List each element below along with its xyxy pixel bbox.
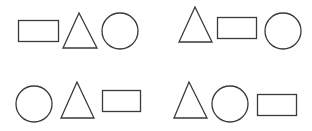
circle-shape	[212, 86, 248, 122]
circle-shape	[265, 13, 301, 49]
rectangle-shape	[19, 21, 59, 42]
group-2	[179, 7, 301, 49]
group-1	[19, 13, 139, 49]
triangle-shape	[63, 13, 97, 48]
circle-shape	[102, 13, 138, 49]
shapes-diagram	[0, 0, 312, 131]
triangle-shape	[174, 82, 207, 118]
rectangle-shape	[103, 91, 141, 112]
group-3	[16, 82, 141, 122]
rectangle-shape	[258, 95, 297, 116]
group-4	[174, 82, 297, 122]
rectangle-shape	[218, 18, 257, 39]
triangle-shape	[61, 82, 94, 118]
triangle-shape	[179, 7, 212, 42]
circle-shape	[16, 86, 52, 122]
